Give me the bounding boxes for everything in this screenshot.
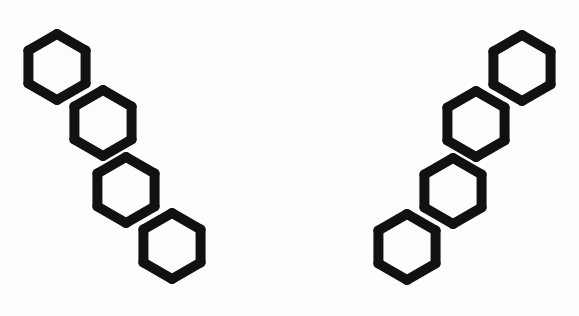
hexagon-edge [447,91,476,108]
hexagon-edge [493,35,522,52]
hexagon-edge [28,34,57,51]
figure-canvas [0,0,579,316]
hexagon-edge [424,158,453,175]
left-figure [28,34,200,279]
hexagon-figures-svg [0,0,579,316]
right-figure [378,35,550,280]
hexagon-edge [378,214,407,231]
